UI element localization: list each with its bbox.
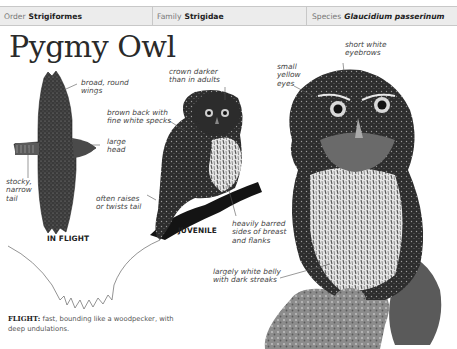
annotation-raises-tail: often raises or twists tail [96,195,141,212]
flight-label: FLIGHT: [8,315,40,323]
annotation-crown-darker: crown darker than in adults [169,68,220,85]
annotation-large-head: large head [107,138,126,155]
annotation-broad-wings: broad, round wings [81,79,129,96]
caption-juvenile: JUVENILE [178,226,217,235]
annotation-yellow-eyes: small yellow eyes [277,63,301,88]
flight-description: FLIGHT: fast, bounding like a woodpecker… [8,315,188,334]
illustrations [0,0,457,349]
caption-in-flight: IN FLIGHT [47,234,89,243]
annotation-stocky-tail: stocky, narrow tail [6,178,32,203]
annotation-white-belly: largely white belly with dark streaks [213,268,281,285]
annotation-short-eyebrows: short white eyebrows [345,41,387,58]
adult-owl-photo [265,69,442,349]
flight-path-diagram [8,240,160,309]
annotation-brown-back: brown back with fine white specks [107,109,171,126]
annotation-barred-sides: heavily barred sides of breast and flank… [232,220,286,245]
